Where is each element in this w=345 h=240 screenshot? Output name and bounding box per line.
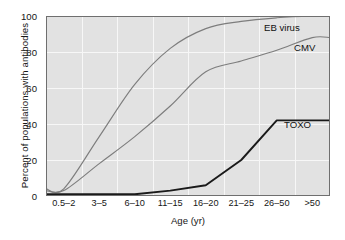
x-tick-label: 6–10 bbox=[125, 198, 145, 208]
y-tick-label: 0 bbox=[32, 191, 37, 202]
series-label-cmv: CMV bbox=[294, 42, 315, 53]
y-tick-label: 60 bbox=[26, 83, 37, 94]
x-tick-label: 3–5 bbox=[92, 198, 107, 208]
y-axis-tick-labels: 020406080100 bbox=[0, 0, 42, 240]
plot-area bbox=[46, 16, 330, 196]
x-axis-label: Age (yr) bbox=[46, 215, 330, 226]
y-tick-label: 100 bbox=[21, 11, 37, 22]
chart-figure: Percent of populations with antibodies 0… bbox=[0, 0, 345, 240]
series-line-toxo bbox=[46, 120, 330, 194]
series-label-eb-virus: EB virus bbox=[264, 22, 300, 33]
x-axis-tick-labels: 0.5–23–56–1011–1516–2021–2526–50>50 bbox=[46, 198, 330, 214]
series-curves bbox=[46, 16, 330, 196]
x-tick-label: 16–20 bbox=[193, 198, 219, 208]
series-line-eb-virus bbox=[46, 16, 330, 193]
y-tick-label: 40 bbox=[26, 119, 37, 130]
y-tick-label: 80 bbox=[26, 47, 37, 58]
x-tick-label: 0.5–2 bbox=[52, 198, 75, 208]
x-tick-label: 26–50 bbox=[264, 198, 290, 208]
x-tick-label: >50 bbox=[304, 198, 320, 208]
x-tick-label: 11–15 bbox=[158, 198, 183, 208]
x-tick-label: 21–25 bbox=[228, 198, 254, 208]
series-line-cmv bbox=[46, 37, 330, 193]
y-tick-label: 20 bbox=[26, 155, 37, 166]
series-label-toxo: TOXO bbox=[284, 119, 311, 130]
